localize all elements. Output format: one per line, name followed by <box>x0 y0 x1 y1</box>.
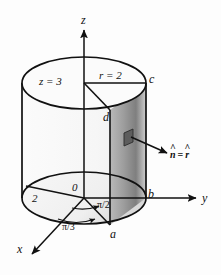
angle-pi-over-2-label: π/2 <box>97 200 110 210</box>
top-radius-dimension-label: r = 2 <box>99 70 122 81</box>
y-axis-label: y <box>202 192 207 204</box>
normal-equals-sign: = <box>178 149 184 160</box>
base-radius-dimension-label: 2 <box>32 193 38 204</box>
x-axis-label: x <box>17 243 22 255</box>
cylindrical-coordinates-figure: z y x 0 z = 3 r = 2 2 c d b a π/2 π/3 n=… <box>0 0 221 275</box>
r-hat-symbol: r <box>185 150 189 160</box>
angle-pi-over-3-label: π/3 <box>62 222 75 232</box>
n-hat-symbol: n <box>170 150 176 160</box>
point-d-label: d <box>103 111 109 123</box>
point-c-label: c <box>149 73 154 85</box>
normal-vector-label: n=r <box>170 150 189 160</box>
point-a-label: a <box>110 228 116 240</box>
z-axis-label: z <box>81 14 86 26</box>
origin-label: 0 <box>72 182 78 193</box>
point-b-label: b <box>148 188 154 200</box>
height-dimension-label: z = 3 <box>39 76 62 87</box>
